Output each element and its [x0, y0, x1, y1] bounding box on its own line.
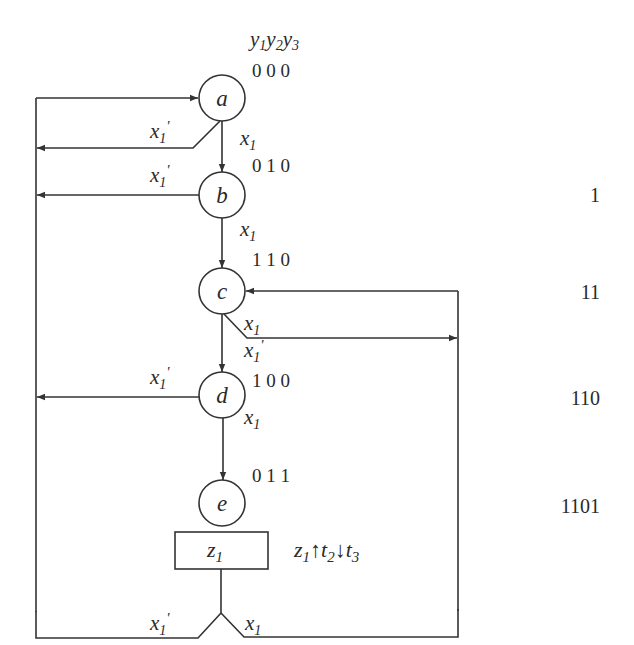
- svg-text:z1↑t2↓t3: z1↑t2↓t3: [293, 537, 359, 565]
- fork-label-x1prime: x1': [149, 610, 170, 638]
- svg-text:x1: x1: [239, 126, 256, 153]
- edge-b-x1prime: x1': [37, 162, 199, 195]
- sequence-label-1: 1: [590, 184, 600, 206]
- state-code-d: 1 0 0: [252, 370, 290, 391]
- svg-text:x1: x1: [243, 311, 260, 338]
- svg-text:e: e: [217, 491, 227, 516]
- edge-d-x1prime: x1': [37, 364, 199, 397]
- svg-text:d: d: [216, 383, 228, 408]
- left-return-bus: [36, 98, 198, 612]
- svg-text:x1: x1: [239, 217, 256, 244]
- state-code-e: 0 1 1: [252, 465, 290, 486]
- svg-text:x1': x1': [149, 162, 170, 190]
- svg-text:a: a: [216, 86, 228, 111]
- edge-a-x1prime: x1': [37, 118, 220, 148]
- svg-text:x1': x1': [149, 364, 170, 392]
- state-code-header: y1y2y3: [248, 27, 299, 53]
- sequence-labels: 1 11 110 1101: [561, 184, 600, 517]
- svg-text:x1': x1': [243, 337, 264, 365]
- output-action: z1↑t2↓t3: [293, 537, 359, 565]
- svg-text:y1y2y3: y1y2y3: [248, 27, 299, 53]
- sequence-label-1101: 1101: [561, 495, 600, 517]
- state-node-b: b 0 1 0: [199, 155, 290, 218]
- svg-text:c: c: [217, 279, 227, 304]
- state-diagram: y1y2y3 a 0 0 0 x1' x1 b 0 1 0 x1' x1: [0, 0, 634, 645]
- state-node-a: a 0 0 0: [199, 60, 290, 121]
- state-code-b: 0 1 0: [252, 155, 290, 176]
- state-code-a: 0 0 0: [252, 60, 290, 81]
- state-node-e: e 0 1 1: [199, 465, 290, 526]
- svg-text:x1: x1: [243, 405, 260, 432]
- sequence-label-110: 110: [571, 387, 600, 409]
- svg-text:x1': x1': [149, 118, 170, 146]
- output-box-z1: z1: [175, 532, 268, 569]
- fork-label-x1: x1: [244, 611, 261, 638]
- svg-text:b: b: [216, 183, 228, 208]
- state-code-c: 1 1 0: [252, 249, 290, 270]
- sequence-label-11: 11: [581, 281, 600, 303]
- bottom-fork: x1' x1: [36, 569, 458, 638]
- state-node-c: c 1 1 0: [199, 249, 290, 314]
- edge-c-x1: x1: [224, 311, 457, 338]
